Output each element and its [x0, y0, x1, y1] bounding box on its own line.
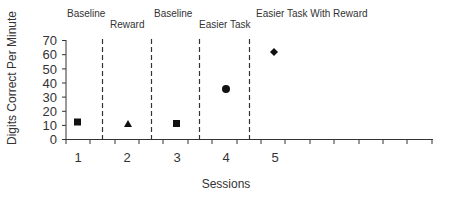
svg-text:50: 50	[43, 62, 57, 77]
svg-text:10: 10	[43, 118, 57, 133]
phase-label-easier-task-with-reward: Easier Task With Reward	[256, 8, 368, 19]
svg-text:70: 70	[43, 33, 57, 48]
y-axis-title: Digits Correct Per Minute	[5, 11, 19, 145]
svg-text:30: 30	[43, 90, 57, 105]
data-point-session-1-square	[74, 119, 81, 126]
svg-text:5: 5	[271, 150, 278, 165]
phase-label-baseline-1: Baseline	[67, 8, 106, 19]
y-axis	[62, 40, 66, 140]
svg-text:40: 40	[43, 76, 57, 91]
data-point-session-3-square	[173, 120, 180, 127]
x-axis-title: Sessions	[202, 177, 251, 191]
data-point-session-5-diamond	[270, 48, 278, 56]
phase-label-reward: Reward	[110, 19, 144, 30]
svg-text:1: 1	[74, 150, 81, 165]
chart: Baseline Reward Baseline Easier Task Eas…	[0, 0, 451, 199]
x-tick-labels: 1 2 3 4 5	[74, 150, 278, 165]
svg-text:3: 3	[173, 150, 180, 165]
svg-text:4: 4	[222, 150, 229, 165]
y-tick-labels: 0 10 20 30 40 50 60 70	[43, 33, 57, 147]
x-axis	[62, 140, 433, 145]
svg-text:0: 0	[50, 132, 57, 147]
data-point-session-4-circle	[222, 85, 230, 93]
svg-text:20: 20	[43, 104, 57, 119]
svg-text:60: 60	[43, 47, 57, 62]
svg-text:2: 2	[123, 150, 130, 165]
data-point-session-2-triangle	[124, 120, 132, 127]
phase-label-easier-task: Easier Task	[199, 19, 252, 30]
phase-label-baseline-2: Baseline	[154, 8, 193, 19]
